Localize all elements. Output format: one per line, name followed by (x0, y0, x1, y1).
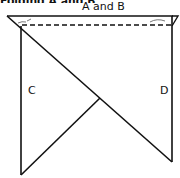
left-lower-edge (21, 98, 100, 175)
label-c: C (28, 85, 36, 96)
right-flap (172, 16, 178, 26)
label-d: D (160, 85, 168, 96)
fold-arrow-right-icon (150, 20, 165, 22)
folding-diagram (0, 0, 180, 178)
fold-arrow-left-icon (18, 19, 31, 23)
label-a-and-b: A and B (82, 1, 125, 12)
